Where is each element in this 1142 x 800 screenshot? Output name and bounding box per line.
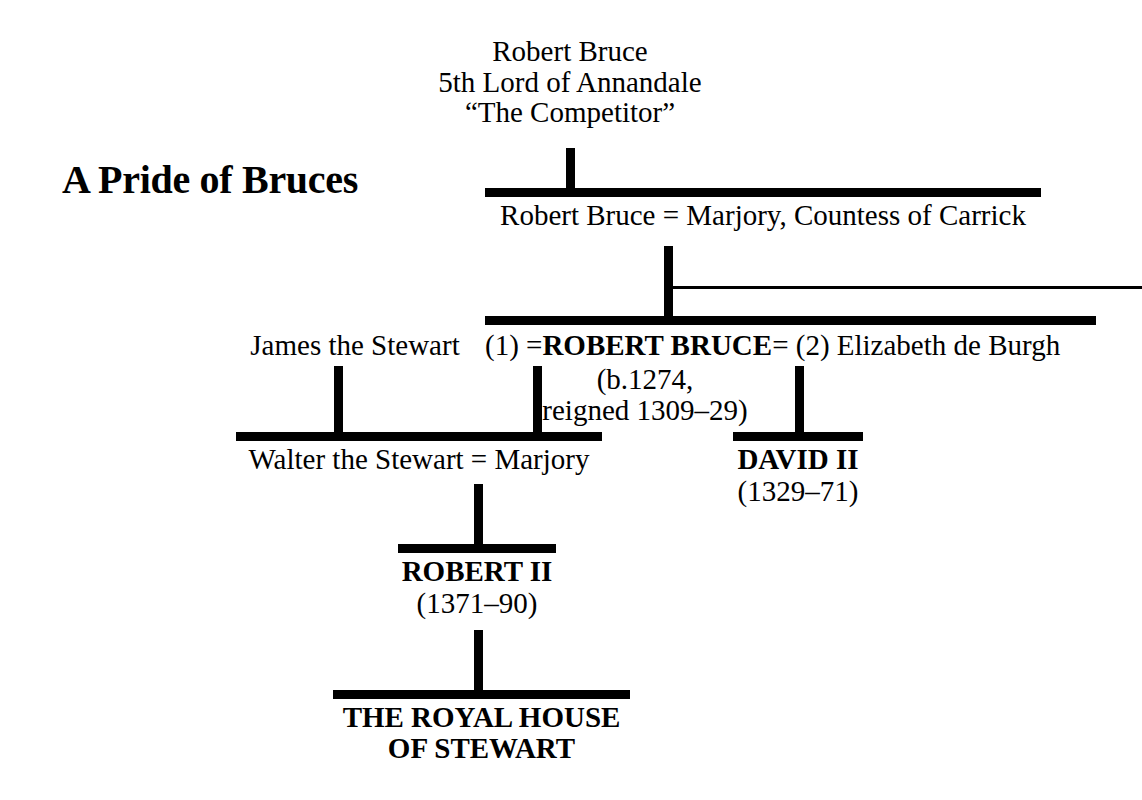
marriage-one-label: (1) =: [485, 329, 542, 361]
rule-gen5-robert-ii: [398, 544, 556, 553]
node-robert-bruce-competitor: Robert Bruce 5th Lord of Annandale “The …: [370, 36, 770, 128]
rule-gen4-stewart: [236, 432, 602, 441]
branch-line-offpage-right: [668, 286, 1142, 289]
royal-house-line-2: OF STEWART: [333, 733, 630, 764]
connector-gen2-to-gen3: [664, 246, 673, 324]
marriage-two-label: = (2) Elizabeth de Burgh: [772, 329, 1060, 361]
node-walter-the-stewart-marjory: Walter the Stewart = Marjory: [236, 444, 602, 475]
connector-robert-ii-to-royal-house: [474, 630, 483, 694]
rule-gen6-royal-house: [333, 690, 630, 699]
node-royal-house-of-stewart: THE ROYAL HOUSE OF STEWART: [333, 702, 630, 763]
page-title: A Pride of Bruces: [62, 160, 358, 200]
node-david-ii-name: DAVID II: [733, 444, 863, 475]
connector-robert-marriage1-to-gen4: [533, 366, 542, 438]
competitor-line-2: 5th Lord of Annandale: [370, 67, 770, 98]
competitor-line-3: “The Competitor”: [370, 97, 770, 128]
connector-robert-marriage2-to-david: [795, 366, 804, 438]
node-robert-bruce-king: (1) =ROBERT BRUCE= (2) Elizabeth de Burg…: [485, 330, 1096, 361]
node-robert-ii-name: ROBERT II: [398, 556, 556, 587]
node-robert-bruce-marjory: Robert Bruce = Marjory, Countess of Carr…: [485, 200, 1041, 231]
node-james-the-stewart: James the Stewart: [230, 330, 480, 361]
node-david-ii-dates: (1329–71): [723, 476, 873, 507]
rule-gen2: [485, 188, 1041, 197]
family-tree-diagram: A Pride of Bruces Robert Bruce 5th Lord …: [0, 0, 1142, 800]
robert-bruce-king-name: ROBERT BRUCE: [542, 329, 772, 361]
rule-gen3: [485, 316, 1096, 325]
node-robert-ii-dates: (1371–90): [388, 588, 566, 619]
royal-house-line-1: THE ROYAL HOUSE: [333, 702, 630, 733]
competitor-line-1: Robert Bruce: [370, 36, 770, 67]
rule-gen4-david: [733, 432, 863, 441]
connector-james-to-gen4: [334, 366, 343, 438]
connector-walter-to-robert-ii: [474, 484, 483, 550]
